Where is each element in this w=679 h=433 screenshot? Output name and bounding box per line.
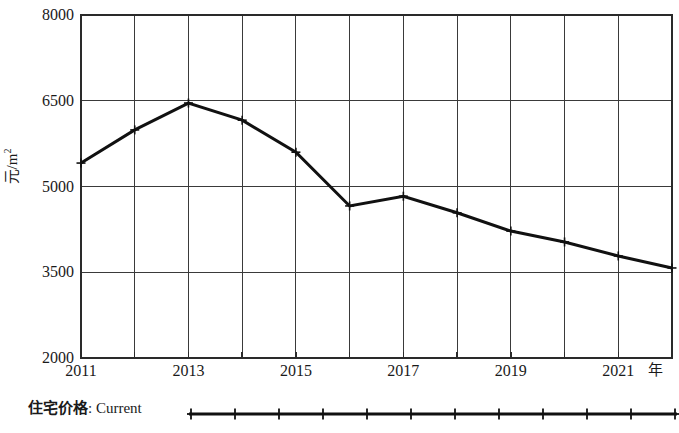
legend-sample-marker [275,409,283,420]
chart-legend: 住宅价格: Current [0,398,679,433]
x-axis-tick-labels: 2011 2013 2015 2017 2019 2021 年 [0,363,679,389]
grid-lines [81,15,672,358]
legend-sample-marker [187,409,195,420]
legend-sample-marker [231,409,239,420]
series-line [81,103,672,268]
x-tick-label-2019: 2019 [481,363,541,379]
legend-line-sample [185,398,679,428]
housing-price-line-chart: 元/m2 8000 6500 5000 3500 2000 2011 2013 … [0,0,679,433]
data-point-marker [560,237,569,246]
legend-sample-marker [319,409,327,420]
x-tick-label-2013: 2013 [158,363,218,379]
series-line-housing-price [77,99,677,273]
legend-sample-marker [451,409,459,420]
legend-sample-marker [627,409,635,420]
legend-sample-marker [407,409,415,420]
x-axis-unit-label: 年 [648,363,663,378]
x-axis-tick-marks [81,352,672,358]
legend-entry-label: 住宅价格: Current [28,401,142,416]
data-point-marker [453,208,462,217]
x-tick-label-2015: 2015 [266,363,326,379]
data-point-marker [614,251,623,260]
legend-sample-marker [495,409,503,420]
x-tick-label-2017: 2017 [373,363,433,379]
data-point-marker [668,263,677,272]
legend-sample-marker [583,409,591,420]
data-point-marker [399,192,408,201]
x-tick-label-2021: 2021 [588,363,648,379]
legend-label-separator: : [88,400,96,416]
data-point-marker [506,227,515,236]
legend-sample-marker [539,409,547,420]
legend-label-english: Current [96,400,142,416]
legend-sample-marker [671,409,679,420]
legend-label-chinese: 住宅价格 [28,400,88,416]
x-tick-label-2011: 2011 [51,363,111,379]
legend-sample-marker [363,409,371,420]
